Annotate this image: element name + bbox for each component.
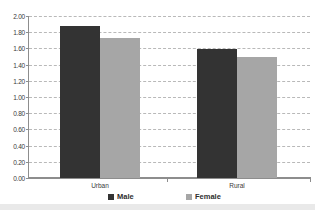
y-tick-label: 0.80 xyxy=(13,110,25,117)
bar-rural-female[interactable] xyxy=(237,57,277,179)
bar-rural-male[interactable] xyxy=(197,49,237,178)
y-tick-mark xyxy=(26,97,29,98)
y-tick-label: 1.80 xyxy=(13,29,25,36)
bar-urban-male[interactable] xyxy=(60,26,100,178)
chart-legend: Male Female xyxy=(0,192,315,204)
male-swatch-icon xyxy=(108,194,114,200)
x-axis-end-tick xyxy=(310,177,311,182)
bottom-band xyxy=(0,204,315,210)
y-tick-mark xyxy=(26,129,29,130)
chart-title: Sex Ratio in Urban and Rural Areas xyxy=(0,0,315,2)
y-tick-mark xyxy=(26,48,29,49)
plot-area: 2.001.801.601.401.201.000.800.600.400.20… xyxy=(29,16,310,178)
y-tick-mark xyxy=(26,65,29,66)
bar-chart: Sex Ratio in Urban and Rural Areas 2.001… xyxy=(0,0,315,210)
bar-urban-female[interactable] xyxy=(100,38,140,178)
gridline xyxy=(29,16,310,17)
y-tick-mark xyxy=(26,16,29,17)
y-tick-label: 1.40 xyxy=(13,61,25,68)
female-swatch-icon xyxy=(186,194,192,200)
gridline xyxy=(29,178,310,179)
y-tick-label: 0.00 xyxy=(13,175,25,182)
y-tick-label: 1.60 xyxy=(13,45,25,52)
y-tick-label: 0.40 xyxy=(13,142,25,149)
y-tick-label: 2.00 xyxy=(13,13,25,20)
y-tick-label: 0.20 xyxy=(13,158,25,165)
legend-item-female[interactable]: Female xyxy=(186,192,221,201)
legend-item-male[interactable]: Male xyxy=(108,192,134,201)
y-tick-label: 1.00 xyxy=(13,94,25,101)
y-tick-mark xyxy=(26,81,29,82)
y-tick-mark xyxy=(26,146,29,147)
category-label-rural: Rural xyxy=(229,182,245,189)
y-tick-label: 1.20 xyxy=(13,77,25,84)
legend-label-male: Male xyxy=(117,192,134,201)
category-label-urban: Urban xyxy=(91,182,109,189)
y-tick-mark xyxy=(26,162,29,163)
y-tick-mark xyxy=(26,113,29,114)
y-tick-mark xyxy=(26,178,29,179)
group-separator-tick xyxy=(167,177,168,182)
y-tick-mark xyxy=(26,32,29,33)
legend-label-female: Female xyxy=(195,192,221,201)
y-tick-label: 0.60 xyxy=(13,126,25,133)
